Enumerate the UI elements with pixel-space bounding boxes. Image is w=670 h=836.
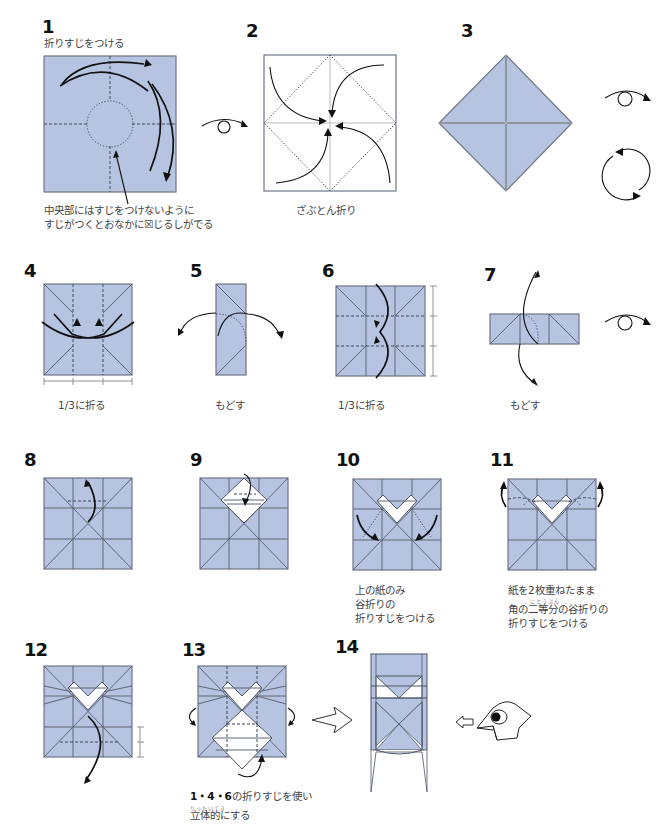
step-1-caption-line-1: 中央部にはすじをつけないように (44, 203, 194, 217)
step-13-figure (180, 666, 310, 786)
step-10-caption-line-2: 谷折りの (355, 597, 395, 611)
step-5-caption: もどす (215, 398, 245, 412)
rotate-icon (603, 148, 653, 200)
step-6-figure (336, 286, 444, 378)
step-4-number: 4 (24, 262, 36, 280)
step-1-number: 1 (42, 18, 54, 36)
step-10-caption-line-1: 上の紙のみ (355, 583, 405, 597)
step-8-number: 8 (24, 451, 36, 469)
step-5-figure (176, 284, 288, 379)
next-arrow-icon (310, 706, 354, 734)
view-direction-arrow-icon (455, 714, 475, 730)
step-14-number: 14 (335, 638, 358, 656)
step-1-caption-line-2: すじがつくとおなかに☒じるしがでる (44, 217, 213, 231)
step-9-figure (200, 478, 290, 570)
step-7-caption: もどす (510, 398, 540, 412)
step-2-caption: ざぶとん折り (296, 203, 356, 217)
step-3-number: 3 (461, 22, 473, 40)
step-13-caption-text: の折りすじを使い (232, 790, 312, 802)
step-2-number: 2 (246, 22, 258, 40)
turn-over-icon (603, 88, 653, 110)
step-6-caption: 1/3に折る (338, 398, 385, 412)
step-14-figure (370, 652, 430, 792)
step-11-figure (498, 479, 610, 571)
step-6-number: 6 (322, 262, 334, 280)
step-10-caption-line-3: 折りすじをつける (355, 611, 435, 625)
step-8-figure (44, 478, 134, 570)
step-12-number: 12 (24, 641, 47, 659)
step-11-number: 11 (490, 451, 513, 469)
step-10-figure (353, 479, 443, 571)
step-1-caption-top: 折りすじをつける (44, 36, 124, 50)
step-5-number: 5 (190, 262, 202, 280)
step-13-caption-line-1: 1・4・6の折りすじを使い (190, 789, 312, 803)
turn-over-icon (200, 116, 250, 138)
step-11-caption-line-2: 角の二等分の谷折りの (508, 602, 608, 616)
step-13-caption-bold: 1・4・6 (190, 790, 232, 802)
bird-head-icon (475, 700, 535, 744)
step-2-figure (264, 55, 400, 193)
step-9-number: 9 (190, 451, 202, 469)
step-7-figure (490, 270, 582, 388)
step-11-caption-line-3: 折りすじをつける (508, 616, 588, 630)
step-12-figure (44, 666, 156, 786)
step-13-number: 13 (182, 641, 205, 659)
step-3-figure (439, 55, 574, 192)
step-11-caption-line-1: 紙を2枚重ねたまま (508, 583, 595, 597)
step-1-figure (44, 56, 180, 192)
step-4-caption: 1/3に折る (58, 398, 105, 412)
step-13-caption-line-2: 立体的にする (190, 808, 250, 822)
step-4-figure (44, 284, 136, 390)
turn-over-icon (603, 312, 653, 334)
step-10-number: 10 (336, 451, 359, 469)
